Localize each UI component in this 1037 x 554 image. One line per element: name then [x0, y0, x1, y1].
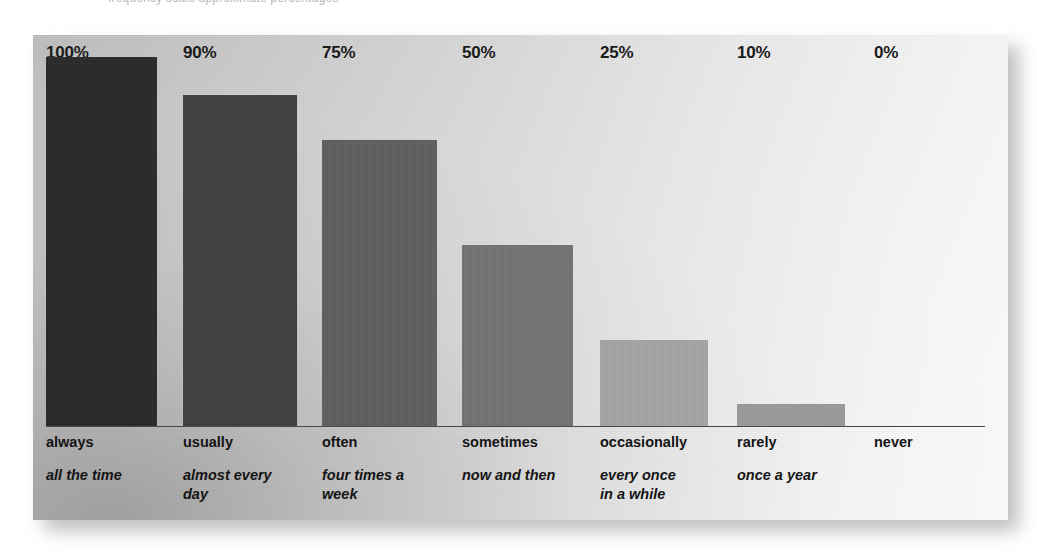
category-label-group-rarely: rarelyonce a year	[737, 434, 869, 485]
bar-rarely	[737, 404, 845, 426]
category-label-group-sometimes: sometimesnow and then	[462, 434, 594, 485]
bar-usually	[183, 95, 297, 426]
category-gloss-always: all the time	[46, 466, 164, 485]
gloss-line: every once	[600, 466, 718, 485]
chart-panel: 100%alwaysall the time90%usuallyalmost e…	[33, 35, 1008, 520]
gloss-line: four times a	[322, 466, 440, 485]
category-name-usually: usually	[183, 434, 315, 450]
category-name-sometimes: sometimes	[462, 434, 594, 450]
gloss-line: week	[322, 485, 440, 504]
axis-baseline	[46, 426, 985, 427]
bar-occasionally	[600, 340, 708, 426]
plot-area: 100%alwaysall the time90%usuallyalmost e…	[33, 35, 1008, 520]
gloss-line: all the time	[46, 466, 164, 485]
gloss-line: once a year	[737, 466, 855, 485]
gloss-line: day	[183, 485, 301, 504]
bar-fill	[183, 95, 297, 426]
category-label-group-never: never	[874, 434, 1006, 450]
category-name-never: never	[874, 434, 1006, 450]
category-label-group-occasionally: occasionallyevery oncein a while	[600, 434, 732, 504]
category-name-always: always	[46, 434, 178, 450]
bar-fill	[600, 340, 708, 426]
category-gloss-often: four times aweek	[322, 466, 440, 504]
chart-screenshot: frequency scale approximate percentages …	[0, 0, 1037, 554]
bar-often	[322, 140, 437, 426]
category-gloss-occasionally: every oncein a while	[600, 466, 718, 504]
gloss-line: now and then	[462, 466, 580, 485]
bar-value-label-sometimes: 50%	[462, 43, 495, 63]
bar-fill	[462, 245, 573, 426]
category-gloss-usually: almost everyday	[183, 466, 301, 504]
bar-fill	[737, 404, 845, 426]
bar-value-label-rarely: 10%	[737, 43, 770, 63]
bar-value-label-usually: 90%	[183, 43, 216, 63]
gloss-line: in a while	[600, 485, 718, 504]
category-gloss-sometimes: now and then	[462, 466, 580, 485]
category-name-rarely: rarely	[737, 434, 869, 450]
bar-value-label-often: 75%	[322, 43, 355, 63]
category-name-occasionally: occasionally	[600, 434, 732, 450]
category-gloss-rarely: once a year	[737, 466, 855, 485]
bar-value-label-never: 0%	[874, 43, 898, 63]
category-name-often: often	[322, 434, 454, 450]
bar-always	[46, 57, 157, 426]
category-label-group-usually: usuallyalmost everyday	[183, 434, 315, 504]
bar-fill	[46, 57, 157, 426]
category-label-group-often: oftenfour times aweek	[322, 434, 454, 504]
bar-value-label-occasionally: 25%	[600, 43, 633, 63]
bar-fill	[322, 140, 437, 426]
category-label-group-always: alwaysall the time	[46, 434, 178, 485]
bar-sometimes	[462, 245, 573, 426]
gloss-line: almost every	[183, 466, 301, 485]
clipped-caption-text: frequency scale approximate percentages	[108, 0, 428, 5]
